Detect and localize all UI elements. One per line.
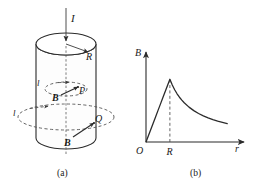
panel-b-caption: (b) — [190, 168, 201, 179]
x-axis-label: r — [235, 143, 239, 154]
panel-a-group: I R l B P l B Q (a) — [13, 8, 114, 179]
point-q-label: Q — [95, 113, 103, 124]
field-inner-label: B — [51, 92, 59, 103]
field-outer-label: B — [63, 137, 71, 148]
radius-label: R — [85, 51, 92, 62]
origin-label: O — [136, 145, 143, 156]
physics-figure: I R l B P l B Q (a) B r O R — [0, 0, 263, 190]
y-axis-label: B — [135, 47, 141, 58]
amperian-loop-outer-label: l — [13, 108, 16, 118]
figure-canvas: I R l B P l B Q (a) B r O R — [0, 0, 263, 190]
x-tick-label-R: R — [165, 146, 172, 157]
current-label: I — [70, 12, 76, 24]
panel-b-group: B r O R (b) — [135, 47, 244, 179]
point-p-label: P — [78, 85, 85, 96]
field-curve — [146, 79, 227, 142]
panel-a-caption: (a) — [57, 168, 68, 179]
